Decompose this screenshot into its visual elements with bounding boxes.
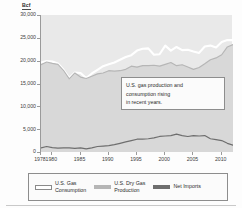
y-tick-label: 30,000 (2, 12, 36, 17)
legend-entry: U.S. GasConsumption (35, 180, 86, 195)
x-tick-label: 1985 (67, 157, 93, 162)
x-tick-mark (164, 152, 165, 155)
x-tick-label: 1990 (95, 157, 121, 162)
y-tick-label: 5,000 (2, 127, 36, 132)
x-tick-label: 1980 (38, 157, 64, 162)
x-tick-mark (51, 152, 52, 155)
chart-legend: U.S. GasConsumptionU.S. Dry GasProductio… (28, 173, 228, 201)
footer-divider (6, 205, 236, 206)
x-tick-mark (108, 152, 109, 155)
annotation-line-1: U.S. gas production and (126, 81, 220, 90)
y-tick-label: 0 (2, 149, 36, 154)
annotation-line-3: in recent years. (126, 98, 220, 107)
legend-entry: U.S. Dry GasProduction (94, 180, 145, 195)
gas-supply-chart-figure: Bcf 05,00010,00015,00020,00025,00030,000… (0, 0, 242, 208)
legend-entry: Net Imports (153, 183, 200, 190)
legend-swatch (94, 185, 111, 189)
y-tick-label: 25,000 (2, 35, 36, 40)
x-tick-mark (80, 152, 81, 155)
legend-swatch (35, 185, 52, 190)
annotation-line-2: consumption rising (126, 90, 220, 99)
legend-label: U.S. GasConsumption (55, 180, 86, 195)
legend-label: U.S. Dry GasProduction (114, 180, 145, 195)
x-tick-mark (221, 152, 222, 155)
x-tick-mark (136, 152, 137, 155)
x-tick-mark (40, 152, 41, 155)
y-tick-label: 10,000 (2, 104, 36, 109)
legend-swatch (153, 185, 170, 189)
x-tick-label: 2010 (208, 157, 234, 162)
y-tick-label: 20,000 (2, 58, 36, 63)
x-tick-label: 2000 (151, 157, 177, 162)
annotation-callout: U.S. gas production and consumption risi… (121, 77, 225, 110)
x-tick-label: 1995 (123, 157, 149, 162)
x-tick-label: 2005 (179, 157, 205, 162)
legend-label: Net Imports (173, 183, 200, 190)
y-tick-label: 15,000 (2, 81, 36, 86)
x-tick-mark (192, 152, 193, 155)
